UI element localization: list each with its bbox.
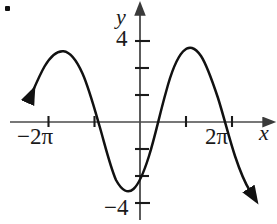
y-axis bbox=[135, 14, 150, 220]
x-tick-label-negative-2pi: −2π bbox=[17, 125, 53, 148]
graph-canvas bbox=[0, 0, 277, 224]
x-axis-label: x bbox=[259, 122, 269, 144]
y-tick-label-4: 4 bbox=[116, 27, 128, 50]
y-tick-label-negative-4: −4 bbox=[104, 196, 128, 219]
x-tick-label-2pi: 2π bbox=[205, 125, 228, 148]
y-axis-label: y bbox=[116, 6, 126, 28]
trig-graph-figure: y x 4 −4 −2π 2π bbox=[0, 0, 277, 224]
